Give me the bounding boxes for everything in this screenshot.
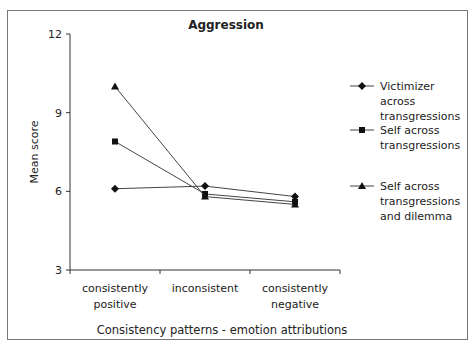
x-tick-label: positive bbox=[93, 298, 136, 311]
y-tick-label: 6 bbox=[55, 185, 62, 198]
triangle-marker-icon bbox=[111, 82, 119, 89]
legend-item: Victimizeracrosstransgressions bbox=[350, 80, 461, 123]
square-marker-icon bbox=[112, 139, 118, 145]
y-tick-label: 3 bbox=[55, 264, 62, 277]
diamond-marker-icon bbox=[201, 182, 209, 190]
series-group bbox=[111, 82, 299, 207]
legend-item: Self acrosstransgressionsand dilemma bbox=[350, 180, 461, 223]
x-tick-label: inconsistent bbox=[172, 282, 239, 295]
legend-label: and dilemma bbox=[380, 210, 452, 223]
line-chart: Aggression 36912consistentlypositiveinco… bbox=[0, 0, 476, 353]
x-tick-label: negative bbox=[271, 298, 319, 311]
y-tick-label: 9 bbox=[55, 107, 62, 120]
axes: 36912consistentlypositiveinconsistentcon… bbox=[48, 28, 340, 311]
legend-label: Victimizer bbox=[380, 80, 435, 93]
legend-label: Self across bbox=[380, 124, 440, 137]
legend-label: across bbox=[380, 95, 416, 108]
legend-label: transgressions bbox=[380, 110, 461, 123]
chart-title: Aggression bbox=[188, 18, 264, 32]
square-marker-icon bbox=[359, 127, 365, 133]
legend-item: Self acrosstransgressions bbox=[350, 124, 461, 152]
legend-label: Self across bbox=[380, 180, 440, 193]
x-tick-label: consistently bbox=[262, 282, 329, 295]
diamond-marker-icon bbox=[358, 82, 366, 90]
legend-label: transgressions bbox=[380, 139, 461, 152]
legend: VictimizeracrosstransgressionsSelf acros… bbox=[350, 80, 461, 223]
x-tick-label: consistently bbox=[82, 282, 149, 295]
legend-label: transgressions bbox=[380, 195, 461, 208]
y-axis-label: Mean score bbox=[28, 120, 41, 183]
x-axis-label: Consistency patterns - emotion attributi… bbox=[97, 323, 348, 337]
y-tick-label: 12 bbox=[48, 28, 62, 41]
diamond-marker-icon bbox=[111, 185, 119, 193]
